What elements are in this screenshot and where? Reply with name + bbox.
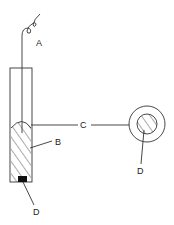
coiled-wire-lead <box>22 14 40 133</box>
label-b: B <box>55 137 61 147</box>
label-d-side: D <box>33 207 40 217</box>
diagram-canvas: A B C D D <box>0 0 174 225</box>
leader-b <box>30 141 52 148</box>
dark-core-element <box>18 176 27 182</box>
label-d-section: D <box>137 166 144 176</box>
leader-d-side <box>23 182 34 205</box>
label-c: C <box>80 120 87 130</box>
leader-d-section <box>141 130 144 164</box>
cross-section <box>129 106 165 142</box>
hatched-filling <box>10 115 32 182</box>
label-a: A <box>36 38 42 48</box>
